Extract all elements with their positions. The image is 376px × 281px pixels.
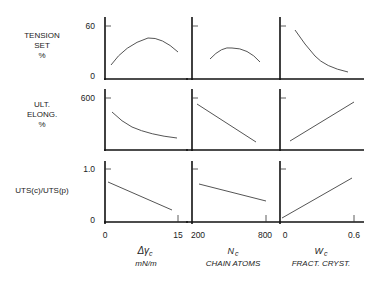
curve-uts-vs-dgamma xyxy=(108,182,172,210)
svg-text:mN/m: mN/m xyxy=(135,259,157,268)
col-label-dgamma: Δγc mN/m xyxy=(135,245,157,268)
ytick-600: 600 xyxy=(81,93,95,103)
curve-uts-vs-nc xyxy=(199,184,266,201)
svg-text:Nc: Nc xyxy=(228,246,240,257)
curve-elong-vs-nc xyxy=(197,104,256,142)
svg-text:Δγc: Δγc xyxy=(136,245,153,257)
xtick-15: 15 xyxy=(173,230,183,240)
curve-uts-vs-wc xyxy=(282,178,352,218)
curve-elong-vs-wc xyxy=(290,102,354,141)
svg-text:ELONG.: ELONG. xyxy=(27,110,57,119)
curves xyxy=(108,30,354,218)
row-label-uts-ratio: UTS(c)/UTS(p) xyxy=(15,186,69,195)
curve-tension-vs-nc xyxy=(210,48,260,62)
xtick-0-col1: 0 xyxy=(103,230,108,240)
xtick-0.6: 0.6 xyxy=(348,230,360,240)
curve-tension-vs-wc xyxy=(295,30,348,72)
svg-text:Wc: Wc xyxy=(315,246,329,257)
curve-tension-vs-dgamma xyxy=(111,38,178,65)
chart-grid: TENSION SET % ULT. ELONG. % UTS(c)/UTS(p… xyxy=(0,0,376,281)
xtick-200: 200 xyxy=(191,230,205,240)
row-label-tension-set: TENSION SET % xyxy=(24,31,60,60)
svg-text:%: % xyxy=(38,51,45,60)
ytick-0-row3: 0 xyxy=(90,215,95,225)
row-label-ult-elong: ULT. ELONG. % xyxy=(27,100,57,129)
col-label-wc: Wc FRACT. CRYST. xyxy=(292,246,351,268)
ytick-60: 60 xyxy=(86,21,96,31)
xtick-800: 800 xyxy=(258,230,272,240)
col-label-nc: Nc CHAIN ATOMS xyxy=(206,246,261,268)
svg-text:CHAIN ATOMS: CHAIN ATOMS xyxy=(206,259,261,268)
svg-text:TENSION: TENSION xyxy=(24,31,60,40)
svg-text:ULT.: ULT. xyxy=(34,100,50,109)
svg-text:FRACT. CRYST.: FRACT. CRYST. xyxy=(292,259,351,268)
svg-text:%: % xyxy=(38,120,45,129)
ytick-1.0: 1.0 xyxy=(83,164,95,174)
svg-text:SET: SET xyxy=(34,41,50,50)
ytick-0-row1: 0 xyxy=(90,71,95,81)
xtick-0-col3: 0 xyxy=(283,230,288,240)
curve-elong-vs-dgamma xyxy=(112,112,177,138)
